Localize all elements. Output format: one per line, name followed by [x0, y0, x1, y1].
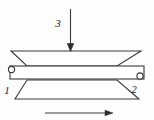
right-roller-circle	[137, 73, 143, 79]
left-support-label: 1	[4, 84, 10, 96]
upper-plate-outline	[11, 51, 141, 66]
rightward-motion-arrow	[45, 110, 113, 116]
lower-plate-outline	[15, 80, 139, 99]
force-arrow-head	[67, 44, 73, 52]
applied-force-label: 3	[54, 17, 61, 29]
left-pin-support: 1	[4, 66, 14, 96]
downward-force-arrow: 3	[54, 9, 73, 52]
diagram-canvas: 1 2 3	[0, 0, 154, 120]
horizontal-beam	[10, 66, 144, 79]
lower-trapezoid-plate	[15, 80, 139, 99]
mechanism-diagram: 1 2 3	[0, 0, 154, 120]
left-pin-circle	[8, 66, 14, 72]
upper-trapezoid-plate	[11, 51, 141, 66]
motion-arrow-head	[105, 110, 113, 116]
right-support-label: 2	[131, 83, 137, 95]
beam-body	[10, 66, 144, 79]
